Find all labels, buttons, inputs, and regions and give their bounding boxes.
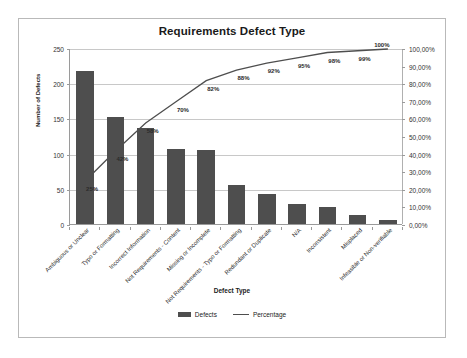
y-axis-right-tick — [402, 49, 405, 50]
x-axis-tick — [220, 227, 221, 230]
y-axis-right-tick-label: 100,00% — [409, 46, 435, 53]
percentage-data-label: 100% — [374, 42, 389, 48]
y-axis-left-tick-label: 250 — [53, 46, 64, 53]
plot-area: 25%42%58%70%82%88%92%95%98%99%100% 05010… — [69, 49, 402, 225]
x-axis-tick — [281, 227, 282, 230]
chart-legend: Defects Percentage — [19, 311, 445, 318]
y-axis-right: 0,00%10,00%20,00%30,00%40,00%50,00%60,00… — [70, 49, 402, 224]
plot-inner: 25%42%58%70%82%88%92%95%98%99%100% 05010… — [69, 49, 402, 225]
y-axis-left-tick-label: 50 — [57, 186, 64, 193]
y-axis-right-tick — [402, 155, 405, 156]
y-axis-right-tick-label: 60,00% — [409, 116, 431, 123]
x-axis-tick — [372, 227, 373, 230]
legend-entry-defects: Defects — [178, 311, 217, 318]
y-axis-right-tick-label: 30,00% — [409, 169, 431, 176]
y-axis-right-tick-label: 0,00% — [409, 222, 427, 229]
x-axis-tick — [160, 227, 161, 230]
y-axis-right-tick — [402, 137, 405, 138]
x-axis-tick — [69, 227, 70, 230]
y-axis-left-tick — [67, 225, 70, 226]
y-axis-left-tick-label: 200 — [53, 81, 64, 88]
x-axis-category-label: Misplaced — [339, 227, 362, 250]
x-axis-tick — [341, 227, 342, 230]
y-axis-right-tick-label: 70,00% — [409, 98, 431, 105]
y-axis-left-title: Number of Defects — [35, 74, 41, 127]
chart-frame: Requirements Defect Type 25%42%58%70%82%… — [18, 18, 446, 338]
x-axis-category-label: Infeasible or Non-verifiable — [338, 227, 393, 282]
y-axis-right-tick — [402, 172, 405, 173]
x-axis-tick — [99, 227, 100, 230]
y-axis-right-tick-label: 10,00% — [409, 204, 431, 211]
x-axis-category-label: N/A — [291, 227, 302, 238]
x-axis-category-label: Inconsistent — [306, 227, 333, 254]
legend-line-swatch-icon — [233, 314, 249, 315]
legend-entry-percentage: Percentage — [233, 311, 286, 318]
x-axis-title: Defect Type — [19, 287, 445, 294]
legend-label-defects: Defects — [195, 311, 217, 318]
x-axis-tick — [190, 227, 191, 230]
y-axis-left-tick-label: 0 — [60, 222, 64, 229]
y-axis-right-tick — [402, 207, 405, 208]
y-axis-right-tick — [402, 84, 405, 85]
y-axis-left-tick-label: 100 — [53, 151, 64, 158]
x-axis-tick — [130, 227, 131, 230]
x-axis-category-label: Not Requirements - Content — [124, 227, 181, 284]
y-axis-right-tick — [402, 119, 405, 120]
y-axis-right-tick-label: 80,00% — [409, 81, 431, 88]
y-axis-right-tick — [402, 190, 405, 191]
y-axis-right-tick-label: 40,00% — [409, 151, 431, 158]
y-axis-right-tick — [402, 67, 405, 68]
y-axis-right-tick-label: 50,00% — [409, 134, 431, 141]
x-axis-tick — [402, 227, 403, 230]
y-axis-right-tick — [402, 102, 405, 103]
y-axis-right-tick-label: 20,00% — [409, 186, 431, 193]
y-axis-right-tick — [402, 225, 405, 226]
chart-title: Requirements Defect Type — [19, 25, 445, 37]
y-axis-left-tick-label: 150 — [53, 116, 64, 123]
x-axis-tick — [311, 227, 312, 230]
y-axis-right-tick-label: 90,00% — [409, 63, 431, 70]
legend-label-percentage: Percentage — [253, 311, 286, 318]
x-axis-tick — [251, 227, 252, 230]
legend-bar-swatch-icon — [178, 312, 191, 317]
